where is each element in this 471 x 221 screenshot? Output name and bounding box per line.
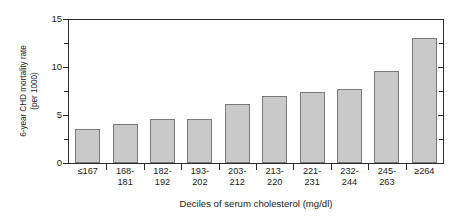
x-category-label-line: 213- <box>256 166 293 177</box>
chart-figure: 6-year CHD mortality rate (per 1000) 051… <box>0 0 471 221</box>
bar <box>150 119 175 163</box>
x-category-label-line: 182- <box>144 166 181 177</box>
x-category-label: 182-192 <box>144 166 181 188</box>
x-category-label: 168-181 <box>106 166 143 188</box>
x-axis-category-labels: ≤167168-181182-192193-202203-212213-2202… <box>68 166 444 192</box>
bar <box>187 119 212 163</box>
x-category-label-line: 168- <box>106 166 143 177</box>
bar-series <box>69 19 443 163</box>
x-category-label-line: 221- <box>293 166 330 177</box>
x-category-label-line: ≤167 <box>69 166 106 177</box>
y-tick-major-right <box>438 163 444 164</box>
x-category-label-line: 232- <box>331 166 368 177</box>
x-category-label: 193-202 <box>181 166 218 188</box>
bar <box>412 38 437 163</box>
x-category-label-line: 212 <box>219 177 256 188</box>
x-category-label-line: 231 <box>293 177 330 188</box>
x-category-label: ≥264 <box>406 166 443 177</box>
x-category-label: ≤167 <box>69 166 106 177</box>
x-category-label-line: 263 <box>368 177 405 188</box>
x-category-label-line: 245- <box>368 166 405 177</box>
bar <box>337 89 362 163</box>
y-axis-title-text: 6-year CHD mortality rate (per 1000) <box>18 45 39 137</box>
y-tick-major <box>63 163 69 164</box>
y-tick-label: 5 <box>32 110 62 120</box>
x-category-label-line: 181 <box>106 177 143 188</box>
y-tick-label: 10 <box>32 62 62 72</box>
x-category-label: 213-220 <box>256 166 293 188</box>
bar <box>225 104 250 163</box>
bar <box>262 96 287 163</box>
y-axis-title-line-2: (per 1000) <box>28 45 39 137</box>
bar <box>113 124 138 163</box>
x-category-label-line: 193- <box>181 166 218 177</box>
y-tick-label: 0 <box>32 158 62 168</box>
x-category-label-line: 220 <box>256 177 293 188</box>
bar <box>75 129 100 163</box>
x-category-label: 245-263 <box>368 166 405 188</box>
x-category-label: 203-212 <box>219 166 256 188</box>
x-category-label-line: ≥264 <box>406 166 443 177</box>
y-axis-title: 6-year CHD mortality rate (per 1000) <box>10 18 46 164</box>
x-category-label: 232-244 <box>331 166 368 188</box>
y-axis-title-line-1: 6-year CHD mortality rate <box>18 45 29 137</box>
y-tick-label: 15 <box>32 14 62 24</box>
x-category-label-line: 203- <box>219 166 256 177</box>
bar <box>374 71 399 163</box>
x-category-label-line: 192 <box>144 177 181 188</box>
x-category-label-line: 202 <box>181 177 218 188</box>
bar <box>300 92 325 163</box>
x-axis-title: Deciles of serum cholesterol (mg/dl) <box>68 198 444 209</box>
x-category-label: 221-231 <box>293 166 330 188</box>
plot-area: 051015 <box>68 19 444 163</box>
x-category-label-line: 244 <box>331 177 368 188</box>
